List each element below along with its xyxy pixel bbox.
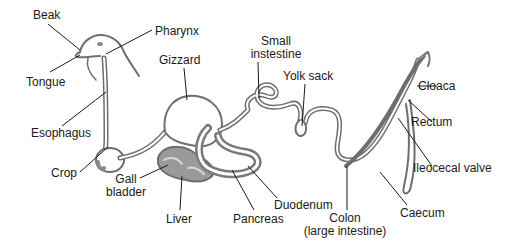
digestive-system-diagram: Beak Pharynx Tongue Gizzard Small instes… [0, 0, 513, 249]
label-beak: Beak [33, 9, 60, 22]
esophagus-leader [62, 92, 106, 126]
beak-shape [76, 52, 100, 57]
label-liver: Liver [166, 213, 192, 226]
label-small-intestine: Small instestine [240, 35, 312, 61]
proventriculus [120, 132, 165, 158]
pharynx-leader [106, 30, 152, 54]
eye [97, 42, 103, 46]
label-caecum: Caecum [400, 207, 445, 220]
label-colon-line2: (large intestine) [300, 225, 390, 238]
label-gall-bladder: Gall bladder [106, 173, 146, 199]
duodenum-leader [248, 166, 277, 198]
label-pharynx: Pharynx [155, 25, 199, 38]
wattle-shape [87, 58, 96, 80]
label-tongue: Tongue [26, 76, 65, 89]
label-rectum: Rectum [411, 116, 452, 129]
label-pancreas: Pancreas [233, 213, 284, 226]
label-cloaca: Cloaca [418, 80, 455, 93]
label-duodenum: Duodenum [274, 199, 333, 212]
label-small-intestine-line2: instestine [240, 48, 312, 61]
label-colon: Colon (large intestine) [300, 212, 390, 238]
liver-leader [180, 176, 182, 210]
label-crop: Crop [51, 167, 77, 180]
yolk-sack-shape [296, 120, 307, 136]
label-ileocecal-valve: Ileocecal valve [413, 162, 492, 175]
label-gizzard: Gizzard [159, 54, 200, 67]
gizzard-leader [184, 68, 187, 100]
label-esophagus: Esophagus [31, 127, 91, 140]
label-yolk-sack: Yolk sack [283, 70, 333, 83]
tongue-leader [50, 55, 80, 72]
label-gall-bladder-line2: bladder [106, 186, 146, 199]
gizzard-shape [164, 96, 222, 147]
beak-leader [48, 24, 80, 50]
